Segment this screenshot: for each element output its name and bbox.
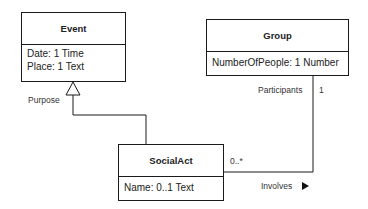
inheritance-triangle-icon bbox=[66, 82, 80, 95]
association-name: Involves bbox=[261, 181, 292, 191]
generalization-label: Purpose bbox=[28, 95, 60, 105]
attribute: Name: 0..1 Text bbox=[124, 181, 218, 194]
attribute: NumberOfPeople: 1 Number bbox=[212, 56, 343, 69]
class-name: Event bbox=[22, 13, 125, 45]
multiplicity-label: 1 bbox=[319, 85, 324, 95]
class-socialact[interactable]: SocialAct Name: 0..1 Text bbox=[118, 144, 224, 201]
class-name: SocialAct bbox=[119, 145, 223, 177]
attribute: Date: 1 Time bbox=[27, 47, 120, 60]
multiplicity-label: 0..* bbox=[230, 156, 243, 166]
class-event[interactable]: Event Date: 1 Time Place: 1 Text bbox=[21, 12, 126, 82]
generalization-line bbox=[73, 95, 146, 144]
class-attributes: Date: 1 Time Place: 1 Text bbox=[22, 45, 125, 75]
class-name: Group bbox=[207, 20, 348, 52]
attribute: Place: 1 Text bbox=[27, 60, 120, 73]
class-attributes: Name: 0..1 Text bbox=[119, 177, 223, 196]
direction-arrow-icon bbox=[302, 182, 309, 190]
role-label: Participants bbox=[258, 85, 302, 95]
class-group[interactable]: Group NumberOfPeople: 1 Number bbox=[206, 19, 349, 76]
class-attributes: NumberOfPeople: 1 Number bbox=[207, 52, 348, 71]
